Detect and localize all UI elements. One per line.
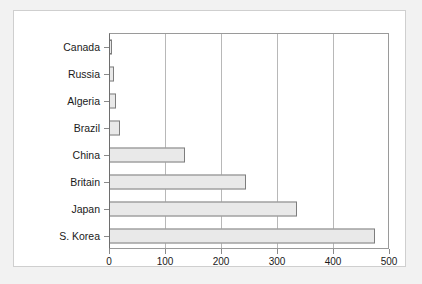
x-tick-mark — [109, 249, 110, 254]
x-tick-mark — [165, 249, 166, 254]
bar — [109, 39, 112, 54]
bar — [109, 120, 120, 135]
y-tick-mark — [104, 47, 109, 48]
bar-row: China — [109, 141, 389, 168]
bar — [109, 66, 114, 81]
bar-row: Britain — [109, 168, 389, 195]
y-tick-mark — [104, 155, 109, 156]
y-tick-mark — [104, 128, 109, 129]
bar-row: Algeria — [109, 87, 389, 114]
bar-row: Russia — [109, 60, 389, 87]
bar — [109, 147, 185, 162]
bar-row: S. Korea — [109, 222, 389, 249]
x-tick-label: 300 — [269, 256, 286, 267]
y-tick-label: Britain — [70, 176, 100, 188]
x-tick-label: 100 — [157, 256, 174, 267]
bar-row: Brazil — [109, 114, 389, 141]
bar — [109, 174, 246, 189]
y-tick-mark — [104, 236, 109, 237]
y-tick-label: Russia — [68, 68, 100, 80]
y-tick-mark — [104, 74, 109, 75]
x-tick-label: 400 — [325, 256, 342, 267]
y-tick-label: Japan — [71, 203, 100, 215]
y-tick-label: Canada — [63, 41, 100, 53]
y-tick-label: China — [73, 149, 100, 161]
y-tick-mark — [104, 101, 109, 102]
x-tick-label: 200 — [213, 256, 230, 267]
x-tick-mark — [389, 249, 390, 254]
x-tick-mark — [333, 249, 334, 254]
y-tick-mark — [104, 209, 109, 210]
y-tick-mark — [104, 182, 109, 183]
x-tick-mark — [277, 249, 278, 254]
x-tick-label: 0 — [106, 256, 112, 267]
x-tick-mark — [221, 249, 222, 254]
bar — [109, 93, 116, 108]
y-tick-label: S. Korea — [59, 230, 100, 242]
bar-row: Canada — [109, 33, 389, 60]
bar — [109, 201, 297, 216]
chart-figure: CanadaRussiaAlgeriaBrazilChinaBritainJap… — [0, 0, 422, 284]
bar-row: Japan — [109, 195, 389, 222]
y-tick-label: Algeria — [67, 95, 100, 107]
x-tick-label: 500 — [381, 256, 398, 267]
bar — [109, 228, 375, 243]
chart-panel: CanadaRussiaAlgeriaBrazilChinaBritainJap… — [13, 10, 406, 267]
y-tick-label: Brazil — [74, 122, 100, 134]
plot-area: CanadaRussiaAlgeriaBrazilChinaBritainJap… — [109, 33, 389, 249]
